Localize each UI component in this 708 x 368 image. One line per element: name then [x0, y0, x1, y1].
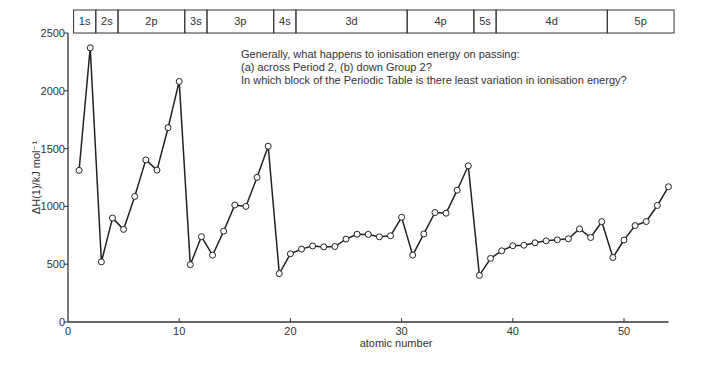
- block-label: 5p: [635, 15, 647, 27]
- x-tick-label: 20: [284, 325, 296, 337]
- data-point-marker: [121, 226, 127, 232]
- block-label: 4p: [434, 15, 446, 27]
- data-point-marker: [465, 163, 471, 169]
- data-point-marker: [399, 214, 405, 220]
- block-label: 4s: [279, 15, 291, 27]
- data-point-marker: [132, 193, 138, 199]
- data-point-marker: [198, 234, 204, 240]
- data-point-marker: [443, 210, 449, 216]
- data-point-marker: [476, 272, 482, 278]
- y-tick-label: 2500: [41, 27, 65, 39]
- x-tick-label: 0: [65, 325, 71, 337]
- data-point-marker: [176, 78, 182, 84]
- data-point-marker: [454, 187, 460, 193]
- data-point-marker: [332, 244, 338, 250]
- data-point-marker: [287, 251, 293, 257]
- data-point-marker: [299, 246, 305, 252]
- y-axis-label: ΔH(1)/kJ mol⁻¹: [30, 141, 42, 215]
- data-point-marker: [532, 240, 538, 246]
- data-point-marker: [654, 202, 660, 208]
- block-label: 2s: [101, 15, 113, 27]
- data-point-marker: [510, 243, 516, 249]
- data-point-marker: [488, 255, 494, 261]
- data-point-marker: [143, 157, 149, 163]
- data-point-marker: [321, 244, 327, 250]
- data-point-marker: [154, 167, 160, 173]
- data-point-marker: [365, 231, 371, 237]
- data-point-marker: [109, 215, 115, 221]
- data-point-marker: [621, 237, 627, 243]
- data-point-marker: [76, 167, 82, 173]
- block-label: 3p: [234, 15, 246, 27]
- data-point-marker: [421, 231, 427, 237]
- data-point-marker: [610, 254, 616, 260]
- data-point-marker: [310, 243, 316, 249]
- data-point-marker: [665, 184, 671, 190]
- data-point-marker: [643, 219, 649, 225]
- question-line-2: (a) across Period 2, (b) down Group 2?: [241, 61, 432, 74]
- data-point-marker: [343, 236, 349, 242]
- data-point-marker: [521, 242, 527, 248]
- data-point-marker: [243, 203, 249, 209]
- data-point-marker: [499, 248, 505, 254]
- data-point-marker: [410, 252, 416, 258]
- y-tick-label: 1000: [41, 200, 65, 212]
- question-line-3: In which block of the Periodic Table is …: [241, 74, 627, 87]
- data-point-marker: [165, 125, 171, 131]
- block-label: 2p: [145, 15, 157, 27]
- x-tick-label: 50: [618, 325, 630, 337]
- data-point-marker: [599, 219, 605, 225]
- data-point-marker: [232, 202, 238, 208]
- question-line-1: Generally, what happens to ionisation en…: [241, 48, 520, 61]
- data-point-marker: [265, 143, 271, 149]
- x-tick-label: 40: [507, 325, 519, 337]
- data-point-marker: [554, 237, 560, 243]
- data-point-marker: [210, 252, 216, 258]
- data-point-marker: [588, 234, 594, 240]
- x-tick-label: 30: [395, 325, 407, 337]
- x-axis-label: atomic number: [360, 337, 433, 349]
- block-label: 1s: [79, 15, 91, 27]
- y-tick-label: 2000: [41, 85, 65, 97]
- data-point-marker: [276, 271, 282, 277]
- data-point-marker: [221, 228, 227, 234]
- orbital-block-bar: 1s2s2p3s3p4s3d4p5s4d5p: [74, 10, 674, 33]
- data-point-marker: [254, 174, 260, 180]
- block-label: 3d: [345, 15, 357, 27]
- data-point-marker: [432, 210, 438, 216]
- data-point-marker: [577, 226, 583, 232]
- y-tick-label: 1500: [41, 143, 65, 155]
- data-point-marker: [354, 231, 360, 237]
- data-point-marker: [87, 45, 93, 51]
- data-point-marker: [376, 234, 382, 240]
- block-label: 4d: [546, 15, 558, 27]
- x-tick-label: 10: [173, 325, 185, 337]
- data-point-marker: [543, 238, 549, 244]
- block-label: 5s: [479, 15, 491, 27]
- data-point-marker: [632, 223, 638, 229]
- data-point-marker: [565, 236, 571, 242]
- data-point-marker: [98, 259, 104, 265]
- data-point-marker: [387, 233, 393, 239]
- data-point-marker: [187, 262, 193, 268]
- y-tick-label: 500: [47, 258, 65, 270]
- block-label: 3s: [190, 15, 202, 27]
